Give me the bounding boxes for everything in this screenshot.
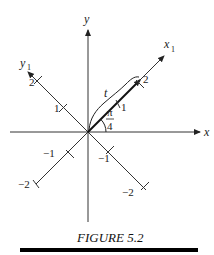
x-axis-label: x	[203, 125, 210, 139]
x1-axis-subscript: 1	[171, 45, 175, 54]
y-axis-label: y	[83, 12, 90, 26]
y1-axis-subscript: 1	[27, 63, 31, 72]
x1-tick-label-1: 1	[121, 101, 127, 113]
y1-tick-label-neg1: −1	[98, 152, 110, 164]
y1-axis-negative	[88, 132, 146, 190]
rotation-diagram: x y x 1 y 1 1 2 −1 −2 1 2 −1 −2 π 4 t FI…	[0, 0, 214, 255]
y1-tick-label-1: 1	[54, 102, 60, 114]
x1-tick-label-neg1: −1	[43, 147, 55, 159]
caption-bar	[20, 248, 198, 252]
y1-ticks	[34, 76, 149, 190]
curve-t	[89, 77, 139, 130]
x1-tick-label-neg2: −2	[18, 178, 30, 190]
y1-tick-label-2: 2	[29, 76, 35, 88]
angle-arc	[101, 119, 106, 132]
vector-arrow	[88, 80, 140, 132]
x1-tick-label-2: 2	[143, 73, 149, 85]
angle-denominator: 4	[107, 120, 113, 132]
x1-axis-label: x	[163, 37, 170, 51]
angle-numerator: π	[107, 106, 113, 118]
curve-label: t	[104, 86, 108, 100]
figure-caption: FIGURE 5.2	[76, 230, 144, 245]
y1-axis-label: y	[19, 56, 26, 70]
y1-tick-label-neg2: −2	[122, 186, 134, 198]
